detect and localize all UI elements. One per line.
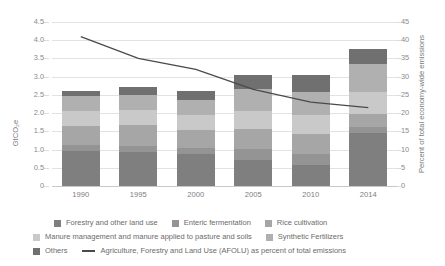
y-tick-left: 2.0: [18, 109, 44, 116]
legend-item[interactable]: Forestry and other land use: [54, 219, 158, 227]
y-tick-right: 25: [401, 91, 427, 98]
line-series-layer: [52, 22, 397, 186]
legend-row-3: OthersAgriculture, Forestry and Land Use…: [0, 244, 445, 258]
clipped-title-strip: [0, 0, 445, 6]
y-tick-right: 20: [401, 109, 427, 116]
y-tick-left: 0.5: [18, 164, 44, 171]
y-tick-right: 0: [401, 182, 427, 189]
y-tick-dash-left: [44, 22, 49, 23]
y-tick-right: 45: [401, 18, 427, 25]
y-tick-dash-left: [44, 58, 49, 59]
legend-line-swatch-icon: [82, 250, 95, 252]
y-tick-dash-left: [44, 150, 49, 151]
x-axis-label: 2010: [282, 190, 340, 199]
legend-color-swatch-icon: [265, 220, 272, 227]
x-axis-label: 1995: [110, 190, 168, 199]
legend-color-swatch-icon: [33, 234, 40, 241]
x-axis-label: 2005: [225, 190, 283, 199]
x-axis-label: 1990: [52, 190, 110, 199]
y-tick-dash-left: [44, 168, 49, 169]
legend-item-label: Rice cultivation: [277, 219, 327, 227]
x-axis-label: 2014: [340, 190, 398, 199]
y-tick-left: 1.5: [18, 127, 44, 134]
y-tick-left: 1.0: [18, 146, 44, 153]
legend-item[interactable]: Enteric fermentation: [172, 219, 251, 227]
y-tick-right: 35: [401, 54, 427, 61]
y-tick-left: 4.5: [18, 18, 44, 25]
y-tick-dash-left: [44, 186, 49, 187]
legend-item-label: Agriculture, Forestry and Land Use (AFOL…: [101, 247, 347, 255]
legend-item-label: Synthetic Fertilizers: [278, 233, 343, 241]
legend-row-1: Forestry and other land useEnteric ferme…: [0, 216, 445, 230]
y-tick-left: 4.0: [18, 36, 44, 43]
y-tick-left: 3.0: [18, 73, 44, 80]
y-tick-right: 15: [401, 127, 427, 134]
y-tick-right: 5: [401, 164, 427, 171]
legend-item-label: Manure management and manure applied to …: [45, 233, 252, 241]
y-tick-dash-left: [44, 95, 49, 96]
afolu-percent-line[interactable]: [81, 37, 369, 108]
y-tick-left: 0: [18, 182, 44, 189]
legend-color-swatch-icon: [266, 234, 273, 241]
legend-item[interactable]: Rice cultivation: [265, 219, 327, 227]
legend-item-label: Forestry and other land use: [66, 219, 158, 227]
y-tick-left: 2.5: [18, 91, 44, 98]
y-tick-dash-left: [44, 77, 49, 78]
chart-container: GtCO₂e Percent of total economy-wide emi…: [0, 0, 445, 266]
x-axis-label: 2000: [167, 190, 225, 199]
y-tick-left: 3.5: [18, 54, 44, 61]
y-tick-right: 10: [401, 146, 427, 153]
y-tick-dash-left: [44, 113, 49, 114]
legend-color-swatch-icon: [33, 248, 40, 255]
legend-color-swatch-icon: [54, 220, 61, 227]
legend-item[interactable]: Synthetic Fertilizers: [266, 233, 343, 241]
plot-area: 199019952000200520102014: [52, 22, 397, 186]
legend-item[interactable]: Agriculture, Forestry and Land Use (AFOL…: [82, 247, 347, 255]
gridline: [52, 186, 397, 187]
legend-item[interactable]: Manure management and manure applied to …: [33, 233, 252, 241]
chart-legend: Forestry and other land useEnteric ferme…: [0, 216, 445, 258]
legend-color-swatch-icon: [172, 220, 179, 227]
y-tick-dash-left: [44, 131, 49, 132]
legend-item-label: Others: [45, 247, 68, 255]
legend-item-label: Enteric fermentation: [184, 219, 251, 227]
y-tick-right: 30: [401, 73, 427, 80]
legend-row-2: Manure management and manure applied to …: [0, 230, 445, 244]
y-tick-right: 40: [401, 36, 427, 43]
legend-item[interactable]: Others: [33, 247, 68, 255]
y-tick-dash-left: [44, 40, 49, 41]
